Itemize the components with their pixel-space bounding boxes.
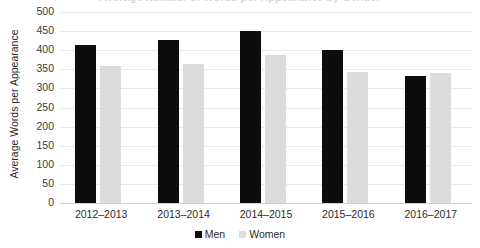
bar-group: [405, 12, 451, 203]
bar-men-2015–2016[interactable]: [322, 50, 343, 203]
x-axis-tick-label: 2014–2015: [225, 208, 307, 220]
x-axis-tick-label: 2015–2016: [307, 208, 389, 220]
y-axis-tick-label: 350: [8, 63, 54, 73]
legend-item-women[interactable]: Women: [239, 228, 285, 240]
bar-women-2014–2015[interactable]: [265, 55, 286, 203]
bar-chart: Average Number of Words per Appearance b…: [0, 0, 480, 248]
y-axis-tick-label: 50: [8, 178, 54, 188]
legend-item-men[interactable]: Men: [195, 228, 225, 240]
bar-group: [240, 12, 286, 203]
x-axis-tick-label: 2013–2014: [142, 208, 224, 220]
chart-title: Average Number of Words per Appearance b…: [0, 0, 480, 3]
x-axis-tick-label: 2016–2017: [390, 208, 472, 220]
bar-women-2016–2017[interactable]: [430, 73, 451, 203]
bar-group: [158, 12, 204, 203]
y-axis-tick-label: 500: [8, 6, 54, 16]
bar-men-2014–2015[interactable]: [240, 31, 261, 203]
y-axis-tick-label: 400: [8, 44, 54, 54]
y-axis-tick-label: 0: [8, 197, 54, 207]
bar-men-2016–2017[interactable]: [405, 76, 426, 203]
legend-label: Men: [205, 228, 225, 240]
bar-men-2012–2013[interactable]: [75, 45, 96, 203]
y-axis-tick-label: 300: [8, 82, 54, 92]
bar-men-2013–2014[interactable]: [158, 40, 179, 203]
y-axis-tick-label: 150: [8, 140, 54, 150]
bar-group: [322, 12, 368, 203]
gridline: [60, 203, 472, 204]
bar-women-2012–2013[interactable]: [100, 66, 121, 203]
legend-label: Women: [249, 228, 285, 240]
plot-area: 0501001502002503003504004505002012–20132…: [60, 12, 472, 203]
chart-legend: MenWomen: [0, 228, 480, 240]
legend-swatch-icon: [239, 231, 246, 238]
x-axis-tick-label: 2012–2013: [60, 208, 142, 220]
bar-group: [75, 12, 121, 203]
bar-women-2013–2014[interactable]: [183, 64, 204, 203]
bar-women-2015–2016[interactable]: [347, 72, 368, 203]
y-axis-tick-label: 200: [8, 121, 54, 131]
y-axis-tick-label: 250: [8, 102, 54, 112]
y-axis-tick-label: 450: [8, 25, 54, 35]
y-axis-tick-label: 100: [8, 159, 54, 169]
legend-swatch-icon: [195, 231, 202, 238]
